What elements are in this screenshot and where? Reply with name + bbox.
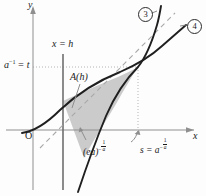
origin-label: O (25, 131, 32, 141)
vertical-line-label: x = h (52, 39, 73, 49)
curve-badge-3: 3 (138, 7, 153, 22)
lower-point-exponent-fraction: 1a (101, 140, 106, 152)
y-intercept-exponent: −1 (9, 58, 16, 65)
s-point-exponent-fraction: 1a (163, 138, 168, 150)
x-axis-label: x (193, 131, 197, 141)
s-point-label: s = a−1a (140, 138, 167, 155)
s-label-arrowhead (135, 130, 141, 135)
area-label: A(h) (70, 72, 88, 82)
math-figure: y x O x = h A(h) a−1= t (ea)−1a s = a−1a… (0, 0, 206, 196)
lower-point-base: (ea) (83, 147, 98, 157)
lower-point-exponent-denominator: a (101, 147, 106, 153)
figure-canvas (0, 0, 206, 196)
curve-badge-4: 4 (187, 19, 202, 34)
s-point-exponent-denominator: a (163, 145, 168, 151)
s-point-lead: s = (140, 145, 155, 155)
y-intercept-equation: = t (18, 59, 30, 70)
y-intercept-label: a−1= t (4, 59, 30, 70)
y-axis-label: y (28, 0, 32, 10)
lower-point-label: (ea)−1a (83, 140, 106, 157)
